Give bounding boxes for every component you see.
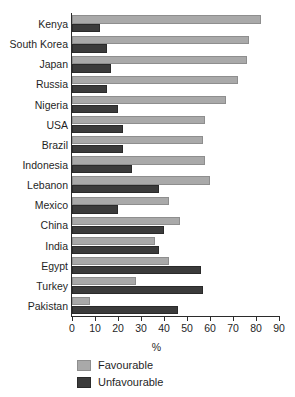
chart-row — [72, 54, 279, 74]
bar-chart: 0102030405060708090 % FavourableUnfavour… — [0, 0, 295, 397]
category-label: China — [0, 220, 68, 231]
category-label: Mexico — [0, 200, 68, 211]
category-label: Kenya — [0, 19, 68, 30]
category-label: USA — [0, 120, 68, 131]
bar-favourable — [72, 156, 205, 164]
chart-row — [72, 74, 279, 94]
x-tick — [279, 316, 280, 321]
bar-favourable — [72, 36, 249, 44]
category-label: Nigeria — [0, 100, 68, 111]
x-tick — [72, 316, 73, 321]
bar-favourable — [72, 15, 261, 23]
x-tick — [95, 316, 96, 321]
x-tick — [256, 316, 257, 321]
bar-unfavourable — [72, 286, 203, 294]
legend-label: Favourable — [98, 360, 153, 371]
x-tick — [210, 316, 211, 321]
x-tick — [141, 316, 142, 321]
bar-favourable — [72, 277, 136, 285]
legend-item: Favourable — [77, 357, 163, 374]
bar-favourable — [72, 96, 226, 104]
chart-row — [72, 115, 279, 135]
bar-favourable — [72, 297, 90, 305]
chart-row — [72, 215, 279, 235]
bar-favourable — [72, 176, 210, 184]
bar-favourable — [72, 136, 203, 144]
bar-unfavourable — [72, 44, 107, 52]
category-label: Russia — [0, 79, 68, 90]
category-label: Indonesia — [0, 160, 68, 171]
bar-favourable — [72, 116, 205, 124]
chart-row — [72, 235, 279, 255]
x-tick — [118, 316, 119, 321]
chart-row — [72, 256, 279, 276]
chart-row — [72, 175, 279, 195]
chart-row — [72, 34, 279, 54]
bar-unfavourable — [72, 64, 111, 72]
bar-unfavourable — [72, 85, 107, 93]
category-label: Lebanon — [0, 180, 68, 191]
category-label: Pakistan — [0, 301, 68, 312]
bar-unfavourable — [72, 24, 100, 32]
plot-area — [72, 14, 279, 316]
x-tick — [164, 316, 165, 321]
chart-row — [72, 155, 279, 175]
category-label: Egypt — [0, 261, 68, 272]
bar-unfavourable — [72, 246, 159, 254]
category-label: India — [0, 241, 68, 252]
bar-unfavourable — [72, 266, 201, 274]
legend-label: Unfavourable — [98, 377, 163, 388]
x-tick-label: 90 — [264, 323, 294, 334]
bar-unfavourable — [72, 185, 159, 193]
bar-favourable — [72, 237, 155, 245]
chart-row — [72, 95, 279, 115]
bar-favourable — [72, 197, 169, 205]
category-label: Japan — [0, 59, 68, 70]
x-axis-line — [71, 316, 280, 317]
bar-unfavourable — [72, 306, 178, 314]
category-label: Turkey — [0, 281, 68, 292]
bar-favourable — [72, 76, 238, 84]
bar-unfavourable — [72, 125, 123, 133]
bar-favourable — [72, 56, 247, 64]
x-axis-title-text: % — [152, 341, 161, 353]
x-axis-title: % — [0, 341, 295, 353]
category-label: South Korea — [0, 39, 68, 50]
chart-row — [72, 276, 279, 296]
bar-favourable — [72, 257, 169, 265]
bar-unfavourable — [72, 205, 118, 213]
x-tick — [187, 316, 188, 321]
legend-swatch-fav — [77, 360, 91, 371]
bar-unfavourable — [72, 105, 118, 113]
chart-row — [72, 195, 279, 215]
chart-row — [72, 14, 279, 34]
category-label: Brazil — [0, 140, 68, 151]
chart-row — [72, 296, 279, 316]
legend-swatch-unfav — [77, 377, 91, 388]
bar-unfavourable — [72, 145, 123, 153]
bar-unfavourable — [72, 165, 132, 173]
bar-unfavourable — [72, 226, 164, 234]
bar-favourable — [72, 217, 180, 225]
chart-row — [72, 135, 279, 155]
legend-item: Unfavourable — [77, 374, 163, 391]
chart-legend: FavourableUnfavourable — [77, 357, 163, 391]
x-tick — [233, 316, 234, 321]
